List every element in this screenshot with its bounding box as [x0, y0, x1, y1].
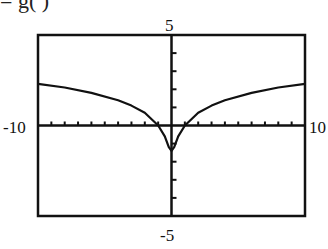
graph-plot	[0, 0, 328, 249]
